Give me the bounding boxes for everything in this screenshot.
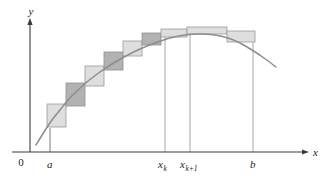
tick-label-base: b (250, 158, 256, 170)
x-axis-arrowhead (302, 149, 309, 154)
origin-label: 0 (18, 156, 24, 168)
riemann-rectangle-9 (227, 31, 255, 42)
tick-label-subscript: k+1 (185, 164, 197, 173)
tick-label-xk: xk (157, 158, 167, 173)
riemann-rectangle-5 (123, 41, 142, 56)
y-axis-arrowhead (27, 18, 32, 25)
riemann-rectangle-6 (142, 33, 161, 45)
x-axis-label: x (312, 146, 318, 158)
tick-label-a: a (47, 158, 53, 170)
y-axis-label: y (28, 5, 34, 17)
tick-label-base: x (179, 158, 185, 170)
drop-line-group (165, 34, 253, 152)
tick-label-group: axkxk+1b (47, 158, 256, 173)
tick-label-xk1: xk+1 (179, 158, 198, 173)
figure-container: y x 0 axkxk+1b (0, 0, 327, 183)
tick-label-b: b (250, 158, 256, 170)
riemann-rectangle-8 (187, 27, 227, 34)
rectangle-group (47, 27, 255, 127)
riemann-sum-figure: y x 0 axkxk+1b (0, 0, 327, 183)
tick-label-subscript: k (163, 164, 167, 173)
tick-label-base: x (157, 158, 163, 170)
tick-label-base: a (47, 158, 53, 170)
